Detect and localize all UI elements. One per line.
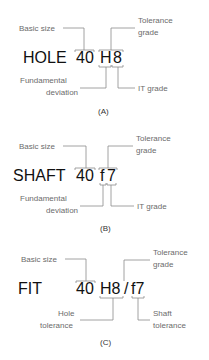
leader-tolerance-grade bbox=[124, 260, 150, 281]
label-tolerance-grade-line1: Tolerance bbox=[138, 16, 173, 25]
leader-it-grade bbox=[118, 67, 135, 88]
leader-tolerance-grade bbox=[111, 28, 135, 50]
leader-fundamental-deviation bbox=[80, 67, 106, 88]
caption-a: (A) bbox=[98, 107, 109, 116]
label-basic-size: Basic size bbox=[21, 255, 58, 264]
leader-basic-size bbox=[65, 259, 86, 281]
leader-it-grade bbox=[111, 185, 134, 206]
label-fundamental-line1: Fundamental bbox=[20, 76, 67, 85]
label-shaft-tolerance-line1: Shaft bbox=[153, 309, 172, 318]
leader-fundamental-deviation bbox=[80, 185, 103, 206]
label-shaft-tolerance-line2: tolerance bbox=[153, 321, 186, 330]
label-hole-tolerance-line2: tolerance bbox=[40, 321, 73, 330]
leader-basic-size bbox=[63, 146, 86, 168]
word-shaft: SHAFT bbox=[13, 167, 66, 184]
label-fundamental-line2: deviation bbox=[46, 206, 78, 215]
shaft-tolerance-code: f7 bbox=[131, 280, 144, 297]
basic-size-value: 40 bbox=[76, 167, 94, 184]
panel-shaft: Basic size Tolerance grade SHAFT 40 f 7 … bbox=[13, 134, 171, 233]
label-it-grade: IT grade bbox=[137, 202, 167, 211]
caption-b: (B) bbox=[100, 224, 111, 233]
it-grade-digit: 7 bbox=[107, 167, 116, 184]
label-fundamental-line1: Fundamental bbox=[20, 194, 67, 203]
hole-tolerance-code: H8 bbox=[100, 280, 121, 297]
label-basic-size: Basic size bbox=[19, 24, 56, 33]
it-grade-digit: 8 bbox=[113, 49, 122, 66]
label-tolerance-grade-line1: Tolerance bbox=[136, 134, 171, 143]
label-tolerance-grade-line2: grade bbox=[153, 260, 174, 269]
leader-shaft-tolerance bbox=[138, 298, 150, 320]
leader-basic-size bbox=[63, 28, 84, 50]
fundamental-deviation-letter: f bbox=[100, 167, 105, 184]
label-tolerance-grade-line2: grade bbox=[136, 146, 157, 155]
fundamental-deviation-letter: H bbox=[100, 49, 112, 66]
label-fundamental-line2: deviation bbox=[46, 88, 78, 97]
panel-fit: Basic size Tolerance grade FIT 40 H8 / f… bbox=[18, 248, 188, 347]
label-it-grade: IT grade bbox=[138, 84, 168, 93]
label-hole-tolerance-line1: Hole bbox=[58, 309, 75, 318]
caption-c: (C) bbox=[100, 338, 111, 347]
label-tolerance-grade-line1: Tolerance bbox=[153, 248, 188, 257]
label-tolerance-grade-line2: grade bbox=[138, 28, 159, 37]
leader-hole-tolerance bbox=[80, 298, 113, 320]
label-basic-size: Basic size bbox=[19, 142, 56, 151]
basic-size-value: 40 bbox=[76, 49, 94, 66]
basic-size-value: 40 bbox=[76, 280, 94, 297]
fit-slash: / bbox=[124, 280, 129, 297]
panel-hole: Basic size Tolerance grade HOLE 40 H 8 F… bbox=[19, 16, 173, 116]
word-hole: HOLE bbox=[23, 49, 67, 66]
leader-tolerance-grade bbox=[108, 146, 133, 168]
tolerance-designation-diagram: Basic size Tolerance grade HOLE 40 H 8 F… bbox=[0, 0, 209, 360]
word-fit: FIT bbox=[18, 280, 42, 297]
